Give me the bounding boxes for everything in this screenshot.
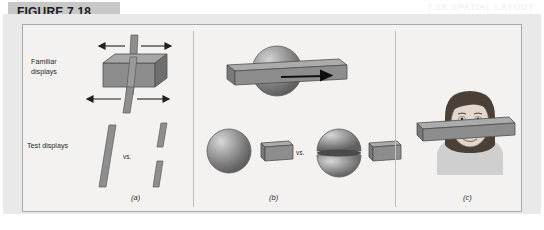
page-ghost-text: 7.1K SPATIAL LAYOUT (427, 2, 534, 12)
test-rod-segment-bottom (153, 161, 163, 187)
panel-b-familiar-sphere-with-plate (219, 39, 351, 115)
figure-frame: Familiar displays Test displays (22, 24, 522, 212)
panel-b-vs-label: vs. (296, 149, 304, 156)
panel-b-test-displays (205, 125, 375, 187)
test-rod-continuous (99, 125, 116, 187)
figure-page: 7.1K SPATIAL LAYOUT FIGURE 7.18 Familiar… (0, 0, 544, 230)
panel-a-label: (a) (131, 193, 140, 202)
row-label-familiar-displays: Familiar displays (31, 57, 75, 76)
test-sphere-whole (207, 129, 251, 173)
panel-c-label: (c) (463, 193, 472, 202)
panel-divider-a-b (193, 31, 194, 207)
panel-c-face-with-plate (411, 83, 515, 177)
panel-b-label: (b) (269, 193, 278, 202)
test-sphere-split (317, 129, 361, 177)
panel-a-familiar-box-with-rod (81, 33, 197, 119)
panel-a-vs-label: vs. (123, 153, 131, 160)
row-label-test-displays: Test displays (27, 141, 83, 151)
panel-divider-b-c (395, 31, 396, 207)
panel-a-test-displays (89, 121, 189, 195)
test-rod-segment-top (157, 123, 167, 147)
